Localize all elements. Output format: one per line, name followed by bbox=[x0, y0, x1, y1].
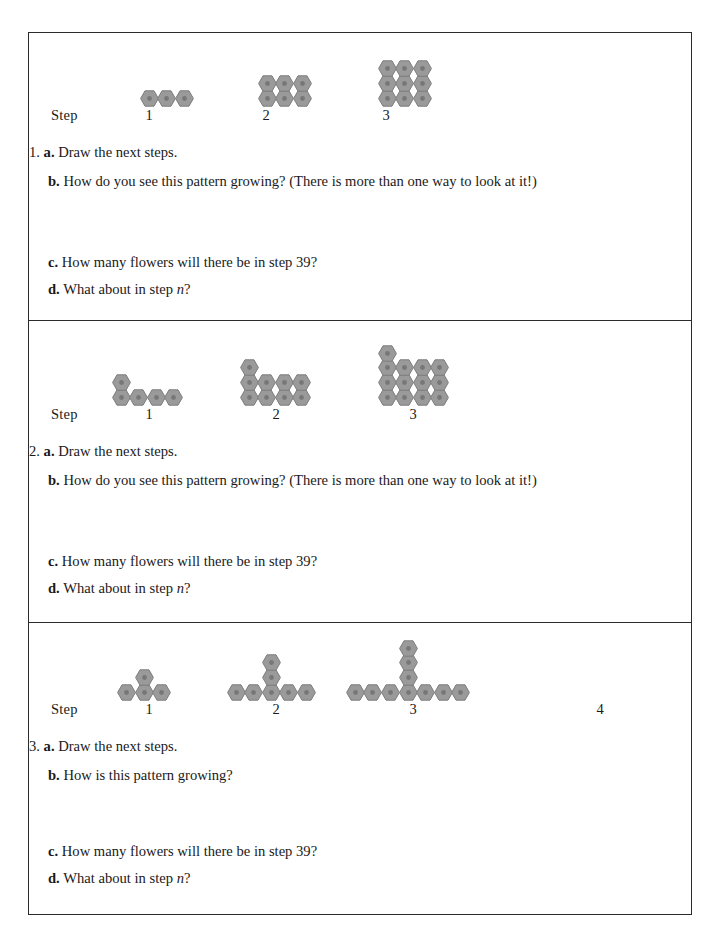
hexagon-flower-icon bbox=[378, 60, 397, 77]
question-letter-2d: d. bbox=[48, 580, 60, 596]
hexagon-flower-icon bbox=[399, 669, 418, 686]
question-1b: b. How do you see this pattern growing? … bbox=[48, 173, 537, 190]
question-text-3c: How many flowers will there be in step 3… bbox=[62, 843, 317, 859]
pattern-3-step-1 bbox=[118, 623, 181, 701]
question-letter-2c: c. bbox=[48, 553, 58, 569]
hexagon-flower-icon bbox=[378, 90, 397, 107]
pattern-3-step-2 bbox=[227, 623, 325, 701]
hexagon-flower-icon bbox=[395, 90, 414, 107]
question-letter-3a: a. bbox=[44, 738, 55, 754]
step-number-2: 2 bbox=[272, 701, 279, 718]
question-2d: d. What about in step n? bbox=[48, 580, 190, 597]
hexagon-flower-icon bbox=[430, 374, 449, 391]
questions-3: 3. a. Draw the next steps. b. How is thi… bbox=[29, 723, 691, 903]
question-1c: c. How many flowers will there be in ste… bbox=[48, 254, 317, 271]
question-text-1b: How do you see this pattern growing? (Th… bbox=[63, 173, 536, 189]
step-number-1: 1 bbox=[145, 107, 152, 124]
question-text-1d: What about in step n? bbox=[63, 281, 190, 297]
hexagon-flower-icon bbox=[434, 684, 453, 701]
pattern-1-step-2 bbox=[257, 33, 316, 107]
step-number-4: 4 bbox=[596, 701, 603, 718]
problem-number-1: 1. bbox=[29, 144, 40, 160]
pattern-2-step-2 bbox=[239, 321, 315, 406]
step-number-3: 3 bbox=[382, 107, 389, 124]
question-2a: 2. a. Draw the next steps. bbox=[29, 443, 177, 460]
hexagon-flower-icon bbox=[413, 75, 432, 92]
hexagon-flower-icon bbox=[292, 389, 311, 406]
questions-2: 2. a. Draw the next steps. b. How do you… bbox=[29, 428, 691, 618]
hexagon-flower-icon bbox=[378, 75, 397, 92]
step-label-row-2: Step 1 2 3 bbox=[29, 406, 691, 428]
pattern-1-step-3 bbox=[377, 33, 436, 107]
hexagon-flower-icon bbox=[140, 90, 159, 107]
hexagon-flower-icon bbox=[395, 389, 414, 406]
hexagon-flower-icon bbox=[275, 374, 294, 391]
step-word-label: Step bbox=[51, 701, 78, 718]
hexagon-flower-icon bbox=[257, 389, 276, 406]
hexagon-flower-icon bbox=[413, 359, 432, 376]
hexagon-flower-icon bbox=[293, 75, 312, 92]
step-number-3: 3 bbox=[409, 701, 416, 718]
hexagon-flower-icon bbox=[451, 684, 470, 701]
step-label-row-3: Step 1 2 3 4 bbox=[29, 701, 691, 723]
hexagon-flower-icon bbox=[147, 389, 166, 406]
pattern-2-step-3 bbox=[377, 321, 453, 406]
problem-block-1: Step 1 2 3 1. a. Draw the next steps. b.… bbox=[29, 33, 691, 321]
hexagon-flower-icon bbox=[395, 374, 414, 391]
hexagon-flower-icon bbox=[395, 359, 414, 376]
hexagon-flower-icon bbox=[413, 90, 432, 107]
hexagon-flower-icon bbox=[135, 684, 154, 701]
problem-block-3: Step 1 2 3 4 3. a. Draw the next steps. … bbox=[29, 623, 691, 913]
question-text-2d: What about in step n? bbox=[63, 580, 190, 596]
hexagon-flower-icon bbox=[117, 684, 136, 701]
pattern-3-step-3 bbox=[346, 623, 479, 701]
hexagon-flower-icon bbox=[240, 374, 259, 391]
question-letter-3b: b. bbox=[48, 767, 60, 783]
question-letter-2b: b. bbox=[48, 472, 60, 488]
hexagon-flower-icon bbox=[240, 359, 259, 376]
step-label-row-1: Step 1 2 3 bbox=[29, 107, 691, 129]
question-3b: b. How is this pattern growing? bbox=[48, 767, 233, 784]
question-1a: 1. a. Draw the next steps. bbox=[29, 144, 177, 161]
step-word-label: Step bbox=[51, 406, 78, 423]
hexagon-flower-icon bbox=[378, 359, 397, 376]
question-letter-2a: a. bbox=[44, 443, 55, 459]
hexagon-flower-icon bbox=[112, 389, 131, 406]
hexagon-flower-icon bbox=[240, 389, 259, 406]
hexagon-flower-icon bbox=[279, 684, 298, 701]
hexagon-flower-icon bbox=[399, 640, 418, 657]
question-3c: c. How many flowers will there be in ste… bbox=[48, 843, 317, 860]
hexagon-flower-icon bbox=[262, 669, 281, 686]
hexagon-flower-icon bbox=[378, 374, 397, 391]
hexagon-flower-icon bbox=[413, 374, 432, 391]
worksheet-frame: Step 1 2 3 1. a. Draw the next steps. b.… bbox=[28, 32, 692, 915]
step-number-3: 3 bbox=[409, 406, 416, 423]
figure-strip-1 bbox=[29, 33, 691, 107]
question-letter-3c: c. bbox=[48, 843, 58, 859]
hexagon-flower-icon bbox=[164, 389, 183, 406]
problem-number-2: 2. bbox=[29, 443, 40, 459]
hexagon-flower-icon bbox=[244, 684, 263, 701]
hexagon-flower-icon bbox=[257, 374, 276, 391]
hexagon-flower-icon bbox=[258, 90, 277, 107]
step-number-1: 1 bbox=[145, 406, 152, 423]
question-text-3a: Draw the next steps. bbox=[58, 738, 177, 754]
question-text-3b: How is this pattern growing? bbox=[63, 767, 232, 783]
step-word-label: Step bbox=[51, 107, 78, 124]
hexagon-flower-icon bbox=[227, 684, 246, 701]
hexagon-flower-icon bbox=[152, 684, 171, 701]
question-letter-1a: a. bbox=[44, 144, 55, 160]
hexagon-flower-icon bbox=[175, 90, 194, 107]
question-2b: b. How do you see this pattern growing? … bbox=[48, 472, 537, 489]
hexagon-flower-icon bbox=[135, 669, 154, 686]
problem-number-3: 3. bbox=[29, 738, 40, 754]
hexagon-flower-icon bbox=[430, 389, 449, 406]
hexagon-flower-icon bbox=[378, 345, 397, 362]
hexagon-flower-icon bbox=[378, 389, 397, 406]
question-text-1c: How many flowers will there be in step 3… bbox=[62, 254, 317, 270]
question-letter-3d: d. bbox=[48, 870, 60, 886]
hexagon-flower-icon bbox=[293, 90, 312, 107]
pattern-1-step-1 bbox=[139, 33, 198, 107]
question-letter-1b: b. bbox=[48, 173, 60, 189]
question-3a: 3. a. Draw the next steps. bbox=[29, 738, 177, 755]
